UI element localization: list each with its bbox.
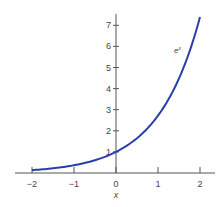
exponential-chart: −2−10121234567 ex x	[0, 0, 222, 207]
y-tick-label: 4	[106, 84, 111, 94]
x-tick-label: 1	[155, 179, 160, 189]
x-tick-label: 2	[197, 179, 202, 189]
y-tick-label: 6	[106, 41, 111, 51]
x-axis-label: x	[113, 190, 119, 200]
x-tick-label: −2	[27, 179, 37, 189]
y-tick-label: 5	[106, 63, 111, 73]
y-tick-label: 3	[106, 105, 111, 115]
x-tick-label: −1	[69, 179, 79, 189]
y-tick-label: 2	[106, 126, 111, 136]
y-tick-label: 7	[106, 20, 111, 30]
axes	[15, 14, 215, 173]
x-tick-label: 0	[113, 179, 118, 189]
curve-label-sup: x	[177, 45, 181, 51]
curve-label: ex	[174, 45, 181, 55]
